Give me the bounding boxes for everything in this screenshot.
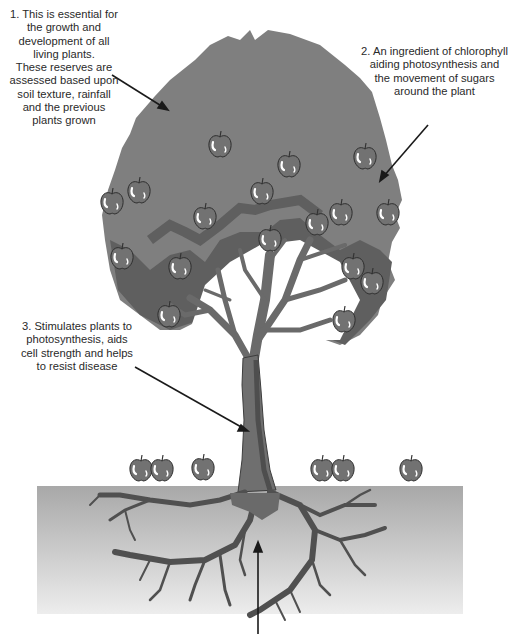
fallen-apples	[130, 454, 422, 481]
label-3-text: 3. Stimulates plants to photosynthesis, …	[16, 320, 138, 373]
label-2-text: 2. An ingredient of chlorophyll aiding p…	[342, 45, 519, 98]
label-1-text: 1. This is essential for the growth and …	[0, 8, 128, 128]
